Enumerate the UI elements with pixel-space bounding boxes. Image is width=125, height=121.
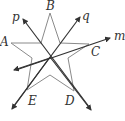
label-line-p: p [12,10,20,24]
label-line-m: m [114,29,125,43]
label-point-d: D [64,94,75,108]
label-point-e: E [27,94,37,108]
star-diagram: A B C D E p q m [0,0,125,121]
label-point-a: A [0,35,9,49]
diagram-canvas: A B C D E p q m [0,0,125,121]
star-outline [11,13,89,91]
label-point-c: C [91,45,100,59]
label-line-q: q [82,9,90,23]
label-point-b: B [45,0,55,13]
